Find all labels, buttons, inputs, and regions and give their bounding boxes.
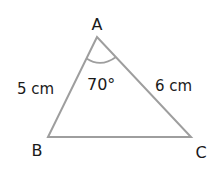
side-ac-label: 6 cm bbox=[155, 77, 192, 95]
vertex-label-a: A bbox=[92, 15, 103, 34]
vertex-label-b: B bbox=[32, 141, 43, 160]
angle-a-label: 70° bbox=[87, 75, 115, 94]
side-ab-label: 5 cm bbox=[17, 80, 54, 98]
triangle-diagram: A B C 5 cm 6 cm 70° bbox=[0, 0, 220, 178]
angle-a-arc bbox=[87, 57, 117, 63]
vertex-label-c: C bbox=[195, 143, 206, 162]
